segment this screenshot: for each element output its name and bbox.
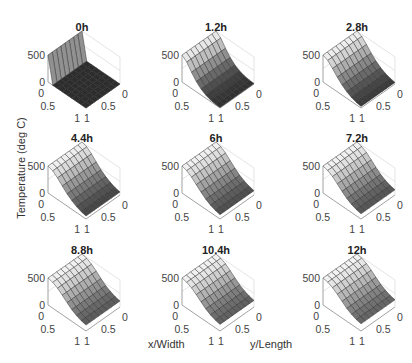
y-tick-label: 1 xyxy=(359,223,365,235)
x-tick-label: 1 xyxy=(349,112,355,124)
x-tick-label: 1 xyxy=(208,223,214,235)
x-tick-label: 0 xyxy=(313,310,319,322)
x-tick-label: 0.5 xyxy=(40,211,55,223)
y-tick-label: 0 xyxy=(256,88,262,100)
y-tick-label: 0 xyxy=(256,311,262,323)
y-tick-label: 0 xyxy=(122,311,128,323)
y-tick-label: 0.5 xyxy=(101,323,116,335)
x-tick-label: 0.5 xyxy=(315,211,330,223)
y-tick-label: 0.5 xyxy=(101,100,116,112)
y-tick-label: 0 xyxy=(397,311,403,323)
y-axis-label: Temperature (deg C) xyxy=(15,117,27,219)
z-tick-label: 500 xyxy=(302,272,320,284)
x-tick-label: 0 xyxy=(38,87,44,99)
panel-title: 12h xyxy=(348,244,367,256)
z-tick-label: 500 xyxy=(27,160,45,172)
panels-container: 0h500000.5100.511.2h500000.5100.512.8h50… xyxy=(27,21,403,347)
x-tick-label: 1 xyxy=(74,112,80,124)
y-tick-label: 1 xyxy=(218,112,224,124)
surface-plot-grid: 0h500000.5100.511.2h500000.5100.512.8h50… xyxy=(0,0,412,363)
surface-panel: 0h500000.5100.51 xyxy=(27,21,128,124)
x-tick-label: 0.5 xyxy=(40,100,55,112)
z-tick-label: 500 xyxy=(161,49,179,61)
x-tick-label: 1 xyxy=(208,112,214,124)
y-tick-label: 0 xyxy=(256,199,262,211)
x-tick-label: 1 xyxy=(74,335,80,347)
panel-title: 4.4h xyxy=(71,132,93,144)
y-tick-label: 1 xyxy=(84,112,90,124)
x-tick-label: 0 xyxy=(38,310,44,322)
y-tick-label: 0.5 xyxy=(101,211,116,223)
y-tick-label: 0 xyxy=(397,88,403,100)
z-tick-label: 500 xyxy=(27,49,45,61)
y-tick-label: 0.5 xyxy=(376,323,391,335)
z-tick-label: 500 xyxy=(161,160,179,172)
x-axis-label: x/Width xyxy=(148,338,185,350)
surface-panel: 10.4h500000.5100.51 xyxy=(161,244,262,347)
x-tick-label: 0.5 xyxy=(174,100,189,112)
panel-title: 1.2h xyxy=(205,21,227,33)
y-tick-label: 1 xyxy=(218,335,224,347)
y-tick-label: 0.5 xyxy=(376,100,391,112)
surface-panel: 6h500000.5100.51 xyxy=(161,132,262,235)
x-tick-label: 0.5 xyxy=(315,100,330,112)
x-tick-label: 0.5 xyxy=(174,323,189,335)
z-tick-label: 500 xyxy=(302,49,320,61)
x-tick-label: 1 xyxy=(74,223,80,235)
panel-title: 7.2h xyxy=(346,132,368,144)
x-tick-label: 0 xyxy=(172,198,178,210)
y-tick-label: 0.5 xyxy=(235,100,250,112)
x-tick-label: 0 xyxy=(172,310,178,322)
z-tick-label: 500 xyxy=(161,272,179,284)
y-tick-label: 0 xyxy=(122,88,128,100)
panel-title: 2.8h xyxy=(346,21,368,33)
surface-panel: 2.8h500000.5100.51 xyxy=(302,21,403,124)
y-tick-label: 0.5 xyxy=(376,211,391,223)
z-tick-label: 500 xyxy=(302,160,320,172)
panel-title: 0h xyxy=(76,21,89,33)
y-tick-label: 0 xyxy=(122,199,128,211)
y-tick-label: 0.5 xyxy=(235,211,250,223)
panel-title: 10.4h xyxy=(202,244,230,256)
x-tick-label: 0 xyxy=(313,198,319,210)
x-tick-label: 1 xyxy=(349,335,355,347)
surface-panel: 8.8h500000.5100.51 xyxy=(27,244,128,347)
surface-panel: 4.4h500000.5100.51 xyxy=(27,132,128,235)
surface-panel: 1.2h500000.5100.51 xyxy=(161,21,262,124)
y-tick-label: 1 xyxy=(359,335,365,347)
x-tick-label: 0 xyxy=(313,87,319,99)
y-tick-label: 0.5 xyxy=(235,323,250,335)
x-tick-label: 0 xyxy=(38,198,44,210)
x-tick-label: 1 xyxy=(349,223,355,235)
surface-panel: 12h500000.5100.51 xyxy=(302,244,403,347)
x-tick-label: 1 xyxy=(208,335,214,347)
x-tick-label: 0.5 xyxy=(40,323,55,335)
x-tick-label: 0.5 xyxy=(315,323,330,335)
length-axis-label: y/Length xyxy=(250,338,292,350)
panel-title: 6h xyxy=(210,132,223,144)
z-tick-label: 500 xyxy=(27,272,45,284)
y-tick-label: 1 xyxy=(84,223,90,235)
y-tick-label: 1 xyxy=(84,335,90,347)
x-tick-label: 0.5 xyxy=(174,211,189,223)
surface-panel: 7.2h500000.5100.51 xyxy=(302,132,403,235)
y-tick-label: 0 xyxy=(397,199,403,211)
panel-title: 8.8h xyxy=(71,244,93,256)
x-tick-label: 0 xyxy=(172,87,178,99)
y-tick-label: 1 xyxy=(218,223,224,235)
y-tick-label: 1 xyxy=(359,112,365,124)
